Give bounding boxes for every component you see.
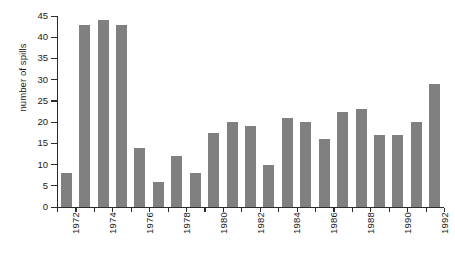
bar-1980	[208, 133, 219, 207]
y-axis-tick-label: 5	[4, 181, 48, 191]
bar-1987	[337, 112, 348, 208]
y-axis-tick	[51, 58, 57, 59]
bar-1979	[190, 173, 201, 207]
bar-1991	[411, 122, 422, 207]
x-axis-tick-label-1986: 1986	[328, 212, 339, 234]
y-axis-tick	[51, 79, 57, 80]
bar-1978	[171, 156, 182, 207]
x-axis-tick-label-1974: 1974	[107, 212, 118, 234]
bar-chart: number of spills 051015202530354045 1972…	[0, 0, 455, 258]
x-axis-tick-label-1972: 1972	[70, 212, 81, 234]
bar-1973	[79, 25, 90, 208]
x-axis-tick-label-1976: 1976	[144, 212, 155, 234]
y-axis-tick	[51, 37, 57, 38]
bar-1972	[61, 173, 72, 207]
y-axis-tick-label: 35	[4, 53, 48, 63]
y-axis-tick-label: 10	[4, 160, 48, 170]
y-axis-tick	[51, 100, 57, 101]
bar-1984	[282, 118, 293, 207]
y-axis-tick	[51, 16, 57, 17]
bar-1977	[153, 182, 164, 207]
bar-1990	[392, 135, 403, 207]
y-axis-tick-label: 20	[4, 117, 48, 127]
y-axis-tick	[51, 122, 57, 123]
bar-1988	[356, 109, 367, 207]
x-axis-tick-label-1992: 1992	[439, 212, 450, 234]
y-axis-tick-label: 30	[4, 75, 48, 85]
y-axis-tick-label: 25	[4, 96, 48, 106]
x-axis-tick-label-1980: 1980	[218, 212, 229, 234]
bar-1992	[429, 84, 440, 207]
y-axis-tick	[51, 185, 57, 186]
y-axis-tick-label: 0	[4, 202, 48, 212]
x-axis-tick-label-1990: 1990	[402, 212, 413, 234]
y-axis-tick-label: 45	[4, 11, 48, 21]
x-axis-tick-labels: 1972197419761978198019821984198619881990…	[57, 212, 447, 258]
bar-1983	[263, 165, 274, 207]
bar-1976	[134, 148, 145, 207]
x-axis-tick-label-1978: 1978	[181, 212, 192, 234]
bar-1974	[98, 20, 109, 207]
bar-1986	[319, 139, 330, 207]
y-axis-tick	[51, 143, 57, 144]
bar-1989	[374, 135, 385, 207]
bar-1975	[116, 25, 127, 208]
bar-1985	[300, 122, 311, 207]
bars-container	[57, 16, 444, 207]
bar-1982	[245, 126, 256, 207]
y-axis-tick	[51, 207, 57, 208]
y-axis-tick-label: 15	[4, 138, 48, 148]
y-axis-tick	[51, 164, 57, 165]
y-axis-tick-label: 40	[4, 32, 48, 42]
x-axis-tick-label-1982: 1982	[255, 212, 266, 234]
x-axis-tick-label-1984: 1984	[291, 212, 302, 234]
x-axis-tick-label-1988: 1988	[365, 212, 376, 234]
y-axis-tick-labels: 051015202530354045	[0, 0, 48, 258]
bar-1981	[227, 122, 238, 207]
